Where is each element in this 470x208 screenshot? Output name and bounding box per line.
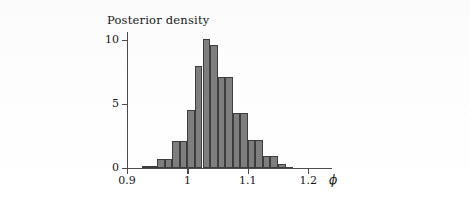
y-axis-tick-label: 5: [95, 97, 119, 110]
histogram-bar: [210, 45, 218, 167]
y-axis-line: [127, 32, 128, 169]
y-axis-tick: [122, 40, 128, 41]
histogram-bar: [203, 39, 211, 168]
histogram-bar: [218, 77, 226, 168]
plot-area: Posterior density 0510 0.911.11.2 ϕ: [0, 0, 470, 208]
histogram-bar: [180, 141, 188, 168]
y-axis-tick: [122, 104, 128, 105]
x-axis-tick-label: 1.1: [228, 174, 268, 187]
chart-title: Posterior density: [107, 13, 209, 27]
y-axis-tick-label: 0: [95, 161, 119, 174]
histogram-bar: [225, 77, 233, 168]
histogram-bar: [263, 156, 271, 167]
x-axis-tick-label: 0.9: [107, 174, 147, 187]
histogram-bar: [233, 113, 241, 168]
histogram-bar: [270, 156, 278, 167]
histogram-bar: [255, 140, 263, 168]
x-axis-line: [127, 168, 332, 169]
figure-container: Posterior density 0510 0.911.11.2 ϕ: [0, 0, 470, 208]
x-axis-variable-label: ϕ: [329, 173, 337, 187]
histogram-bar: [240, 113, 248, 168]
y-axis-tick-label: 10: [95, 33, 119, 46]
histogram-bar: [165, 159, 173, 167]
histogram-bar: [248, 140, 256, 168]
histogram-bar: [195, 66, 203, 168]
histogram-bar: [172, 141, 180, 168]
histogram-bar: [157, 159, 165, 167]
histogram-bar: [187, 110, 195, 167]
x-axis-tick-label: 1.2: [288, 174, 328, 187]
x-axis-tick-label: 1: [167, 174, 207, 187]
